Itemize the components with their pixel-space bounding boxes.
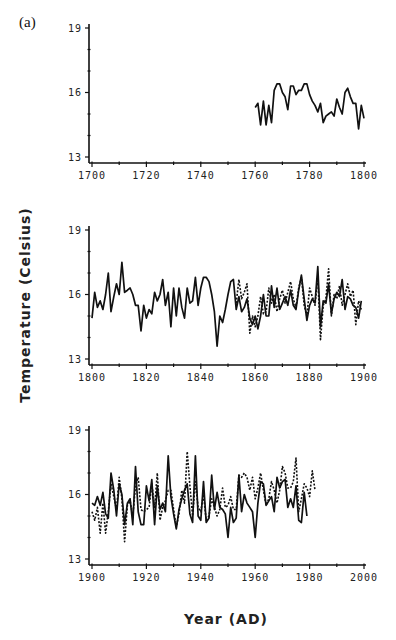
x-tick-label: 1900 xyxy=(350,372,378,383)
x-tick-label: 2000 xyxy=(350,572,378,583)
figure: (a) 131619170017201740176017801800131619… xyxy=(0,0,396,640)
x-tick-label: 1960 xyxy=(241,572,269,583)
series-solid-line xyxy=(92,456,307,538)
y-tick-label: 19 xyxy=(68,425,82,436)
x-tick-label: 1840 xyxy=(187,372,215,383)
chart-panel-3: 131619190019201940196019802000 xyxy=(68,425,378,584)
x-tick-label: 1740 xyxy=(187,170,215,181)
series-solid-line xyxy=(255,84,364,129)
chart-panel-2: 131619180018201840186018801900 xyxy=(68,225,378,384)
x-tick-label: 1800 xyxy=(78,372,106,383)
y-tick-label: 13 xyxy=(68,554,82,565)
y-tick-label: 16 xyxy=(68,87,82,98)
y-tick-label: 13 xyxy=(68,152,82,163)
y-tick-label: 13 xyxy=(68,354,82,365)
panels: 1316191700172017401760178018001316191800… xyxy=(68,23,378,584)
x-tick-label: 1940 xyxy=(187,572,215,583)
y-tick-label: 19 xyxy=(68,23,82,34)
y-tick-label: 16 xyxy=(68,289,82,300)
x-tick-label: 1700 xyxy=(78,170,106,181)
y-axis-label: Temperature (Celsius) xyxy=(17,207,33,402)
x-axis-label: Year (AD) xyxy=(183,611,268,627)
x-tick-label: 1900 xyxy=(78,572,106,583)
series-dashed-line xyxy=(92,452,315,542)
y-tick-label: 16 xyxy=(68,489,82,500)
x-tick-label: 1720 xyxy=(132,170,160,181)
x-tick-label: 1880 xyxy=(296,372,324,383)
panel-label: (a) xyxy=(19,14,36,31)
x-tick-label: 1780 xyxy=(296,170,324,181)
x-tick-label: 1800 xyxy=(350,170,378,181)
chart-panel-1: 131619170017201740176017801800 xyxy=(68,23,378,182)
x-tick-label: 1860 xyxy=(241,372,269,383)
x-tick-label: 1820 xyxy=(132,372,160,383)
x-tick-label: 1980 xyxy=(296,572,324,583)
x-tick-label: 1760 xyxy=(241,170,269,181)
y-tick-label: 19 xyxy=(68,225,82,236)
x-tick-label: 1920 xyxy=(132,572,160,583)
